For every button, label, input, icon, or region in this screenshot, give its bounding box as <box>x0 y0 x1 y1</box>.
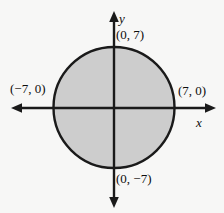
y-axis-down-arrowhead <box>109 197 119 208</box>
y-axis-up-arrowhead <box>109 11 119 22</box>
x-axis-label: x <box>196 116 202 129</box>
circle-graph-figure: y x (0, 7) (−7, 0) (7, 0) (0, −7) <box>0 0 224 213</box>
x-axis-right-arrowhead <box>205 103 216 113</box>
x-axis-left-arrowhead <box>11 103 22 113</box>
y-axis-label: y <box>119 12 125 25</box>
point-label-right: (7, 0) <box>178 84 206 97</box>
point-label-top: (0, 7) <box>116 28 144 41</box>
point-label-left: (−7, 0) <box>10 82 46 95</box>
point-label-bottom: (0, −7) <box>116 172 152 185</box>
coordinate-plane-graphic <box>0 0 224 213</box>
